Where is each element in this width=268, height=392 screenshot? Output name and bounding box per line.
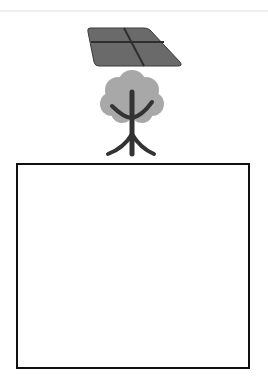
- empty-box: [16, 163, 250, 369]
- tree-icon: [96, 68, 168, 158]
- solar-panel-icon: [84, 26, 184, 68]
- top-divider: [0, 10, 268, 12]
